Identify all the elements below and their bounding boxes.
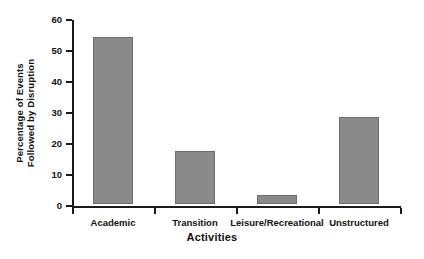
y-axis-tick-label: 40	[51, 77, 62, 87]
plot-area: 0102030405060 AcademicTransitionLeisure/…	[72, 20, 400, 206]
bar	[339, 117, 379, 204]
bar	[175, 151, 215, 204]
y-axis-title: Percentage of Events Followed by Disrupt…	[10, 20, 40, 206]
x-axis-tick	[154, 208, 156, 214]
bar-chart: Percentage of Events Followed by Disrupt…	[0, 0, 424, 259]
y-axis-tick-label: 50	[51, 46, 62, 56]
y-axis-tick: 10	[66, 174, 72, 176]
y-axis-tick: 40	[66, 81, 72, 83]
x-axis-category-label: Transition	[172, 218, 217, 228]
y-axis-tick: 60	[66, 19, 72, 21]
x-axis-tick	[400, 208, 402, 214]
y-axis-tick: 30	[66, 112, 72, 114]
bar	[257, 195, 297, 204]
y-axis-title-line-2: Followed by Disruption	[25, 59, 37, 167]
x-axis-title: Activities	[0, 231, 424, 243]
y-axis-tick: 50	[66, 50, 72, 52]
x-axis-category-label: Unstructured	[329, 218, 389, 228]
y-axis-tick-label: 0	[57, 201, 62, 211]
bar	[93, 37, 133, 204]
y-axis-tick-label: 20	[51, 139, 62, 149]
y-axis-title-line-1: Percentage of Events	[14, 63, 26, 163]
y-axis-tick: 20	[66, 143, 72, 145]
y-axis-tick-label: 10	[51, 170, 62, 180]
x-axis-tick	[318, 208, 320, 214]
x-axis-tick	[236, 208, 238, 214]
x-axis-category-label: Academic	[91, 218, 136, 228]
y-axis-tick-label: 60	[51, 15, 62, 25]
x-axis-tick	[72, 208, 74, 214]
y-axis-line	[72, 20, 74, 207]
x-axis-category-label: Leisure/Recreational	[230, 218, 323, 228]
y-axis-tick: 0	[66, 205, 72, 207]
y-axis-tick-label: 30	[51, 108, 62, 118]
